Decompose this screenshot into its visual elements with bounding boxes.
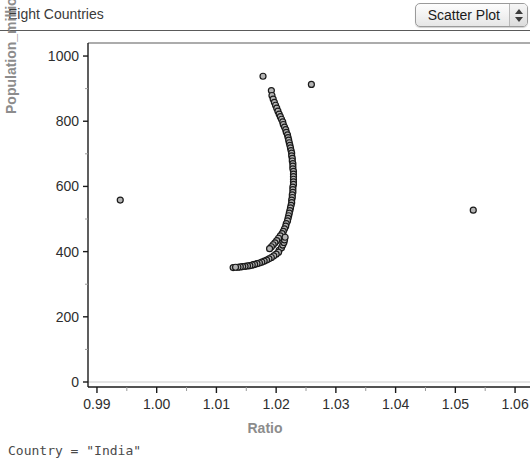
data-point[interactable]	[470, 207, 476, 213]
plot-type-selected-value: Scatter Plot	[416, 4, 509, 26]
plot-canvas[interactable]: 020040060080010000.991.001.011.021.031.0…	[0, 31, 530, 416]
plot-type-stepper[interactable]	[509, 4, 527, 26]
axis-tick-labels: 020040060080010000.991.001.011.021.031.0…	[48, 48, 529, 412]
data-point[interactable]	[233, 264, 239, 270]
svg-text:0: 0	[71, 374, 79, 390]
data-point[interactable]	[260, 73, 266, 79]
data-point[interactable]	[117, 197, 123, 203]
svg-text:200: 200	[56, 309, 80, 325]
y-axis-title: Population_millions	[3, 92, 19, 114]
axis-frame	[88, 43, 530, 387]
svg-text:800: 800	[56, 113, 80, 129]
svg-text:1.02: 1.02	[263, 396, 290, 412]
svg-text:1.06: 1.06	[501, 396, 528, 412]
triangle-up-icon[interactable]	[515, 9, 523, 14]
data-point[interactable]	[267, 246, 273, 252]
svg-text:1000: 1000	[48, 48, 79, 64]
svg-text:1.01: 1.01	[203, 396, 230, 412]
data-points[interactable]	[117, 73, 476, 270]
status-line: Country = "India"	[8, 443, 141, 458]
svg-text:1.05: 1.05	[442, 396, 469, 412]
data-point[interactable]	[282, 234, 288, 240]
svg-text:1.00: 1.00	[143, 396, 170, 412]
svg-text:1.03: 1.03	[322, 396, 349, 412]
svg-text:400: 400	[56, 244, 80, 260]
plot-type-dropdown[interactable]: Scatter Plot	[415, 3, 528, 27]
axis-ticks	[83, 56, 515, 393]
svg-text:600: 600	[56, 178, 80, 194]
triangle-down-icon[interactable]	[515, 17, 523, 22]
data-point[interactable]	[308, 81, 314, 87]
svg-text:1.04: 1.04	[382, 396, 409, 412]
scatter-plot[interactable]: 020040060080010000.991.001.011.021.031.0…	[0, 31, 530, 416]
svg-text:0.99: 0.99	[83, 396, 110, 412]
page-title: Eight Countries	[8, 6, 104, 22]
x-axis-title: Ratio	[0, 420, 530, 436]
chart-header: Eight Countries Scatter Plot	[0, 0, 530, 31]
